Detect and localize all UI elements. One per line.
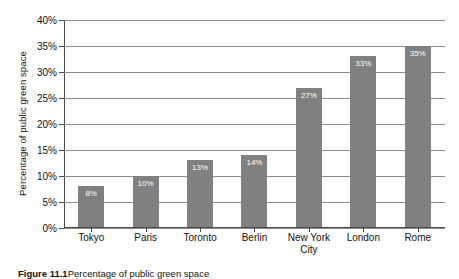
figure-bar-chart: Percentage of public green space 0%5%10%… [0,0,459,279]
bar-slot: 35% [391,20,445,228]
bar-slot: 14% [227,20,281,228]
bar-data-label: 33% [350,59,376,68]
x-axis-category-label: London [336,232,390,255]
bar-data-label: 14% [241,158,267,167]
x-axis-category-label: New York City [282,232,336,255]
bar-slot: 10% [118,20,172,228]
bar-slot: 33% [336,20,390,228]
x-axis-category-label: Tokyo [64,232,118,255]
y-axis-tick-label: 30% [37,67,57,78]
bar-data-label: 35% [405,49,431,58]
y-axis-tick-label: 35% [37,41,57,52]
x-axis-line [64,227,445,228]
figure-caption-text: Percentage of public green space [68,268,210,279]
bar: 35% [405,46,431,228]
x-axis-category-label: Berlin [227,232,281,255]
bar: 13% [187,160,213,228]
x-axis-category-label: Rome [391,232,445,255]
x-axis-category-label: Toronto [173,232,227,255]
bar: 10% [133,176,159,228]
plot-area: 0%5%10%15%20%25%30%35%40% 8%10%13%14%27%… [64,20,445,228]
bar-data-label: 13% [187,163,213,172]
y-axis-tick [59,228,64,229]
y-axis-tick-label: 0% [43,223,57,234]
bar: 27% [296,88,322,228]
bar: 14% [241,155,267,228]
bar-data-label: 8% [78,189,104,198]
bar-slot: 13% [173,20,227,228]
figure-caption-label: Figure 11.1 [18,268,68,279]
y-axis-tick-label: 15% [37,145,57,156]
y-axis-tick-label: 20% [37,119,57,130]
y-axis-title: Percentage of public green space [17,14,28,234]
y-axis-tick-label: 10% [37,171,57,182]
figure-caption: Figure 11.1Percentage of public green sp… [18,268,209,279]
bar-slot: 27% [282,20,336,228]
bar-series: 8%10%13%14%27%33%35% [64,20,445,228]
y-axis-tick-label: 25% [37,93,57,104]
bar: 8% [78,186,104,228]
y-axis-tick-label: 40% [37,15,57,26]
x-axis-category-label: Paris [118,232,172,255]
bar-slot: 8% [64,20,118,228]
bar-data-label: 27% [296,91,322,100]
x-axis-tick-labels: TokyoParisTorontoBerlinNew York CityLond… [64,232,445,255]
y-axis-tick-label: 5% [43,197,57,208]
bar-data-label: 10% [133,179,159,188]
bar: 33% [350,56,376,228]
